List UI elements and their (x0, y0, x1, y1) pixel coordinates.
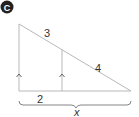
parallel-marks (17, 74, 65, 77)
label-base-total: x (73, 106, 80, 117)
label-upper-hypotenuse: 3 (44, 27, 50, 39)
similar-triangles-diagram: C 3 4 2 x (0, 0, 139, 117)
badge-label: C (4, 3, 11, 13)
problem-badge: C (1, 1, 14, 14)
hypotenuse (19, 24, 131, 91)
label-lower-hypotenuse: 4 (95, 62, 101, 74)
triangle (19, 24, 131, 91)
label-base-left: 2 (37, 93, 43, 105)
